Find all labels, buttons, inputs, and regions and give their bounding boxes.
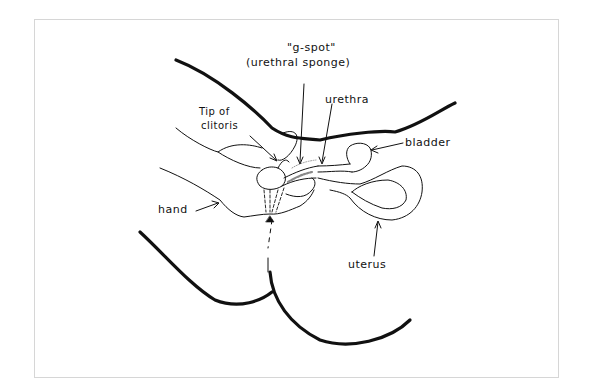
label-hand: hand — [158, 204, 188, 216]
urethra-path — [318, 164, 350, 166]
body-outline-lower-left — [140, 232, 272, 304]
label-clitoris-line2: clitoris — [201, 120, 238, 132]
label-urethral-sponge: (urethral sponge) — [246, 57, 350, 69]
label-urethra: urethra — [325, 94, 369, 106]
label-uterus: uterus — [348, 259, 386, 271]
body-outline-lower-right — [270, 272, 410, 344]
uterus-shape — [318, 166, 422, 220]
label-gspot: "g-spot" — [287, 42, 336, 54]
label-clitoris-line1: Tip of — [199, 106, 230, 118]
label-bladder: bladder — [405, 137, 451, 149]
bladder-shape — [347, 143, 372, 172]
